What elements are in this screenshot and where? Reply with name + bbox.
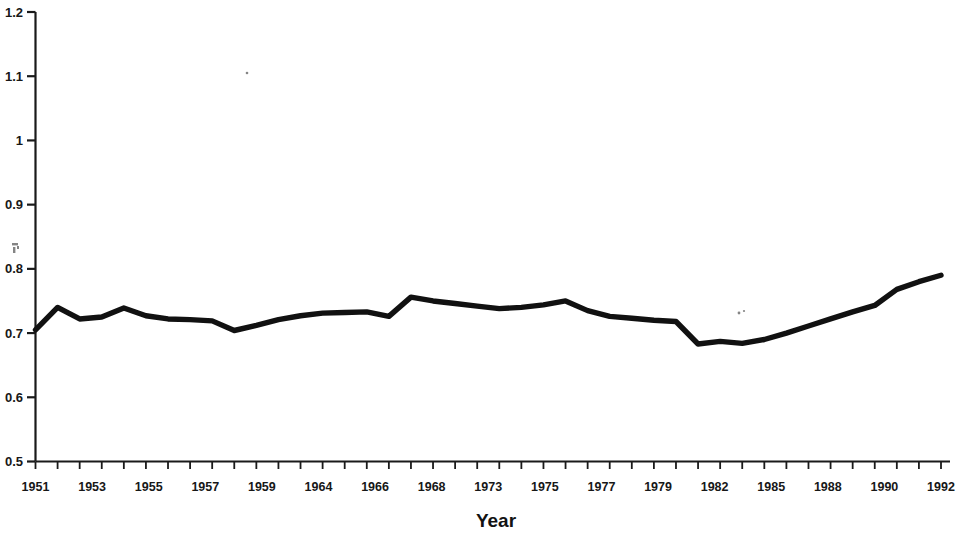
x-tick-label: 1979 [644,480,672,494]
x-tick-label: 1951 [22,480,50,494]
x-tick-label: 1964 [305,480,333,494]
x-tick-label: 1977 [588,480,616,494]
x-tick-label: 1955 [135,480,163,494]
chart-container: 0.50.60.70.80.911.11.2 19511953195519571… [0,0,957,538]
scan-artifact-dot-upper [246,72,249,75]
x-tick-label: 1985 [757,480,785,494]
scan-artifact-dot-mid-2 [743,310,745,312]
x-tick-label: 1990 [871,480,899,494]
x-tick-label: 1953 [78,480,106,494]
x-tick-label: 1992 [927,480,955,494]
y-tick-label: 0.5 [5,454,23,469]
x-axis-tick-labels: 1951195319551957195919641966196819731975… [22,480,955,494]
y-tick-label: 1 [16,133,23,148]
scan-artifact-dot-mid [738,312,741,315]
x-tick-label: 1968 [418,480,446,494]
y-tick-label: 1.1 [5,69,23,84]
x-axis-title: Year [476,510,517,531]
chart-background [0,0,957,538]
x-tick-label: 1959 [248,480,276,494]
x-tick-label: 1966 [361,480,389,494]
y-tick-label: 0.7 [5,326,23,341]
y-tick-label: 0.6 [5,390,23,405]
line-chart: 0.50.60.70.80.911.11.2 19511953195519571… [0,0,957,538]
x-tick-label: 1982 [701,480,729,494]
x-tick-label: 1975 [531,480,559,494]
y-tick-label: 1.2 [5,5,23,20]
y-tick-label: 0.8 [5,261,23,276]
x-tick-label: 1957 [191,480,219,494]
x-tick-label: 1988 [814,480,842,494]
y-tick-label: 0.9 [5,197,23,212]
x-tick-label: 1973 [474,480,502,494]
